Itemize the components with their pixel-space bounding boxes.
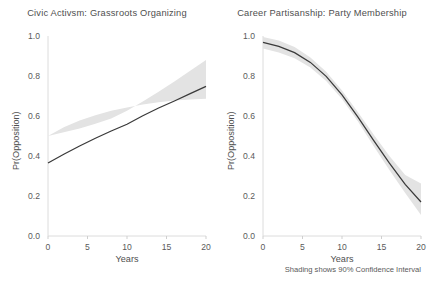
- xtick-label-left-15: 15: [156, 242, 178, 252]
- chart-panel-civic-activism: Civic Activsm: Grassroots Organizing 1.0…: [0, 0, 214, 260]
- axis-lines-left: [48, 36, 206, 236]
- ytick-label-right-0.8: 0.8: [229, 71, 255, 81]
- xtick-label-left-20: 20: [195, 242, 217, 252]
- yaxis-title-right: Pr(Opposition): [226, 111, 236, 170]
- xtick-label-left-5: 5: [77, 242, 99, 252]
- ytick-label-left-0.0: 0.0: [14, 231, 40, 241]
- xaxis-title-left: Years: [48, 254, 206, 264]
- ytick-label-right-0.2: 0.2: [229, 191, 255, 201]
- chart-panel-career-partisanship: Career Partisanship: Party Membership 1.…: [215, 0, 429, 260]
- xtick-label-left-10: 10: [116, 242, 138, 252]
- confidence-band-right: [263, 37, 421, 215]
- ytick-label-left-0.2: 0.2: [14, 191, 40, 201]
- xtick-label-left-0: 0: [37, 242, 59, 252]
- figure-container: Civic Activsm: Grassroots Organizing 1.0…: [0, 0, 429, 282]
- xtick-label-right-0: 0: [252, 242, 274, 252]
- axis-lines-right: [263, 36, 421, 236]
- confidence-interval-note: Shading shows 90% Confidence Interval: [285, 265, 421, 274]
- ytick-label-left-1.0: 1.0: [14, 31, 40, 41]
- ytick-label-right-1.0: 1.0: [229, 31, 255, 41]
- xtick-label-right-5: 5: [292, 242, 314, 252]
- ytick-label-right-0.0: 0.0: [229, 231, 255, 241]
- ytick-label-left-0.8: 0.8: [14, 71, 40, 81]
- xtick-label-right-10: 10: [331, 242, 353, 252]
- xtick-label-right-20: 20: [410, 242, 429, 252]
- xtick-label-right-15: 15: [371, 242, 393, 252]
- xaxis-title-right: Years: [263, 254, 421, 264]
- yaxis-title-left: Pr(Opposition): [11, 111, 21, 170]
